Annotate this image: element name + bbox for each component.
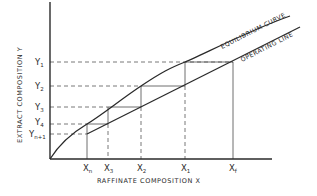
yn1-label: Yn+1 [28,129,46,140]
y1-label: Y1 [34,57,44,68]
y-tick-labels: Y1 Y2 Y3 Y4 Yn+1 [28,57,46,140]
y2-label: Y2 [34,81,44,92]
y-guide-lines [50,62,233,134]
xf-label: Xf [229,163,238,174]
y3-label: Y3 [34,102,44,113]
x1-label: X1 [181,163,190,174]
y-axis-title: EXTRACT COMPOSITION Y [16,47,24,143]
xn-label: Xn [83,163,93,174]
x-tick-labels: Xn X3 X2 X1 Xf [83,163,238,174]
y4-label: Y4 [34,117,44,128]
x-axis-title: RAFFINATE COMPOSITION X [97,177,201,185]
x3-label: X3 [104,163,114,174]
stage-steps [87,62,233,159]
equilibrium-curve [50,16,290,159]
extraction-stage-diagram: EQUILIBRIUM CURVE OPERATING LINE Y1 Y2 Y… [0,0,317,196]
x-guide-lines [108,86,185,159]
x2-label: X2 [137,163,146,174]
